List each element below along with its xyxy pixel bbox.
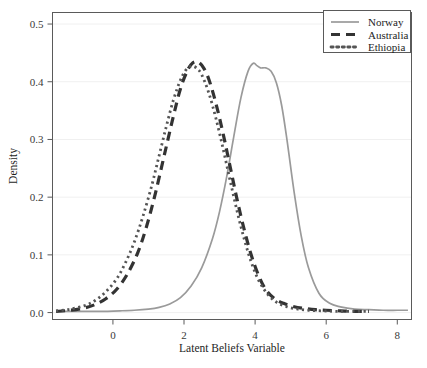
density-curve-ethiopia <box>56 66 369 311</box>
x-tick-label: 8 <box>395 329 401 341</box>
legend-label-norway: Norway <box>368 16 404 28</box>
legend-label-ethiopia: Ethiopia <box>368 41 405 53</box>
x-tick-label: 4 <box>252 329 258 341</box>
y-tick-label: 0.3 <box>30 133 44 145</box>
legend-label-australia: Australia <box>368 29 408 41</box>
x-axis-ticks: 02468 <box>110 320 400 341</box>
data-curves <box>56 62 408 312</box>
x-axis-title: Latent Beliefs Variable <box>179 342 285 354</box>
x-tick-label: 0 <box>110 329 116 341</box>
y-tick-label: 0.5 <box>30 18 44 30</box>
y-tick-label: 0.4 <box>30 76 44 88</box>
y-tick-label: 0.0 <box>30 307 44 319</box>
chart-canvas: 0.00.10.20.30.40.5 02468 Latent Beliefs … <box>0 0 427 368</box>
legend: NorwayAustraliaEthiopia <box>324 11 411 54</box>
y-tick-label: 0.1 <box>30 249 44 261</box>
density-curve-australia <box>56 62 369 312</box>
x-tick-label: 2 <box>181 329 187 341</box>
y-axis-title: Density <box>7 148 20 184</box>
plot-frame <box>53 13 412 320</box>
x-tick-label: 6 <box>323 329 329 341</box>
y-axis-ticks: 0.00.10.20.30.40.5 <box>30 18 53 319</box>
density-curve-norway <box>56 63 408 311</box>
density-plot-figure: 0.00.10.20.30.40.5 02468 Latent Beliefs … <box>0 0 427 368</box>
y-tick-label: 0.2 <box>30 191 44 203</box>
